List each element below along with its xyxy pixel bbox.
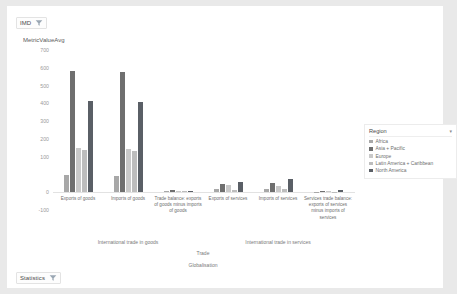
chevron-down-icon[interactable]: ▾ — [449, 128, 452, 134]
legend-item[interactable]: Europe — [369, 154, 452, 159]
legend-panel[interactable]: Region ▾ AfricaAsia + PacificEuropeLatin… — [364, 124, 457, 179]
y-tick: 700 — [40, 47, 49, 53]
bar[interactable] — [338, 190, 343, 192]
y-tick: 100 — [40, 154, 49, 160]
legend-swatch — [369, 169, 373, 173]
y-tick: 400 — [40, 100, 49, 106]
y-tick: 200 — [40, 136, 49, 142]
slicer-statistics[interactable]: Statistics — [16, 272, 61, 284]
bar[interactable] — [176, 191, 181, 192]
bar[interactable] — [70, 71, 75, 192]
bar[interactable] — [276, 186, 281, 192]
bar[interactable] — [220, 184, 225, 192]
legend-item-label: North America — [376, 168, 407, 173]
bar[interactable] — [232, 190, 237, 192]
x-axis-label: Trade balance: exports of goods minus im… — [153, 196, 203, 221]
bar[interactable] — [270, 183, 275, 192]
y-tick: 600 — [40, 65, 49, 71]
bar[interactable] — [188, 191, 193, 192]
bar[interactable] — [126, 149, 131, 192]
bar-group — [153, 50, 203, 192]
bar[interactable] — [226, 185, 231, 192]
legend-item[interactable]: North America — [369, 168, 452, 173]
x-axis-level-globalisation: Globalisation — [53, 262, 353, 268]
bar[interactable] — [182, 191, 187, 192]
y-axis: 700 600 500 400 300 200 100 0 -100 — [23, 6, 49, 294]
bar[interactable] — [76, 148, 81, 192]
x-axis-label: Imports of goods — [103, 196, 153, 221]
report-canvas: IMD MetricValueAvg 700 600 500 400 300 2… — [7, 6, 443, 288]
bar-group — [303, 50, 353, 192]
legend-title: Region — [369, 128, 387, 134]
legend-item-label: Asia + Pacific — [376, 146, 406, 151]
legend-swatch — [369, 140, 373, 144]
bar-group — [53, 50, 103, 192]
y-tick: 500 — [40, 83, 49, 89]
bar[interactable] — [264, 189, 269, 192]
legend-item-label: Europe — [376, 154, 392, 159]
bar[interactable] — [214, 189, 219, 192]
filter-icon[interactable] — [49, 274, 57, 282]
bar[interactable] — [238, 182, 243, 192]
legend-item-label: Africa — [376, 139, 389, 144]
slicer-statistics-label: Statistics — [20, 275, 45, 281]
bar[interactable] — [82, 150, 87, 192]
x-axis-level-services: International trade in services — [203, 239, 353, 245]
bar[interactable] — [88, 101, 93, 192]
bar[interactable] — [332, 192, 337, 193]
legend-swatch — [369, 162, 373, 166]
bar[interactable] — [64, 175, 69, 192]
bar[interactable] — [282, 189, 287, 192]
y-tick: -100 — [39, 207, 49, 213]
bar-group — [103, 50, 153, 192]
legend-item[interactable]: Latin America + Caribbean — [369, 161, 452, 166]
x-axis-level-trade: Trade — [53, 250, 353, 256]
bar-group — [253, 50, 303, 192]
legend-swatch — [369, 154, 373, 158]
legend-item-label: Latin America + Caribbean — [376, 161, 434, 166]
x-axis-level-goods: International trade in goods — [53, 239, 203, 245]
bar[interactable] — [288, 179, 293, 192]
legend-header[interactable]: Region ▾ — [369, 128, 452, 137]
x-axis-label: Exports of services — [203, 196, 253, 221]
x-axis-label: Exports of goods — [53, 196, 103, 221]
x-axis-category-labels: Exports of goodsImports of goodsTrade ba… — [53, 196, 353, 221]
bar[interactable] — [314, 192, 319, 193]
bar[interactable] — [114, 176, 119, 192]
zero-baseline — [53, 192, 355, 193]
bar[interactable] — [164, 191, 169, 192]
legend-items: AfricaAsia + PacificEuropeLatin America … — [369, 139, 452, 173]
y-tick: 0 — [46, 189, 49, 195]
bar-group — [203, 50, 253, 192]
bar[interactable] — [320, 191, 325, 192]
bar[interactable] — [170, 190, 175, 192]
y-tick: 300 — [40, 118, 49, 124]
bar[interactable] — [326, 191, 331, 192]
x-axis-label: Services trade balance: exports of servi… — [303, 196, 353, 221]
bar[interactable] — [120, 72, 125, 192]
legend-item[interactable]: Africa — [369, 139, 452, 144]
legend-swatch — [369, 147, 373, 151]
bar-groups — [53, 50, 353, 192]
bar[interactable] — [132, 151, 137, 192]
x-axis-label: Imports of services — [253, 196, 303, 221]
bar[interactable] — [138, 102, 143, 192]
legend-item[interactable]: Asia + Pacific — [369, 146, 452, 151]
